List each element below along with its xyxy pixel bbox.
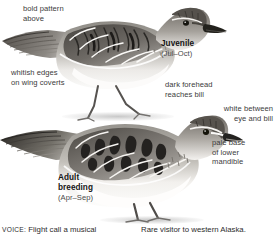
caption-juvenile-name: Juvenile — [161, 39, 227, 49]
annotation-dark-forehead: dark forehead reaches bill — [165, 80, 245, 99]
footer: VOICE: Flight call a musical Rare visito… — [0, 221, 277, 237]
voice-description: Flight call a musical — [26, 225, 96, 234]
caption-adult-breeding-name: Adult breeding — [58, 173, 120, 193]
voice-label: VOICE: — [2, 226, 26, 233]
field-guide-page: bold pattern above whitish edges on wing… — [0, 0, 277, 237]
caption-adult-breeding: Adult breeding (Apr–Sep) — [58, 173, 120, 202]
caption-adult-breeding-season: (Apr–Sep) — [58, 193, 120, 203]
annotation-bold-pattern: bold pattern above — [23, 4, 103, 23]
caption-juvenile: Juvenile (Jul–Oct) — [161, 39, 227, 59]
annotation-whitish-edges: whitish edges on wing coverts — [11, 68, 109, 87]
voice-text: VOICE: Flight call a musical — [2, 225, 96, 235]
adult-breeding-bird-illustration — [0, 110, 244, 228]
range-text: Rare visitor to western Alaska. — [141, 225, 246, 235]
annotation-pale-base-of-lower-mandible: pale base of lower mandible — [212, 138, 276, 167]
annotation-white-between-eye-and-bill: white between eye and bill — [187, 104, 273, 123]
caption-juvenile-season: (Jul–Oct) — [161, 49, 227, 59]
